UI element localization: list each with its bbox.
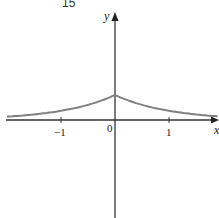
x-tick-label-1: 1 bbox=[166, 126, 172, 138]
y-axis-label: y bbox=[103, 9, 110, 23]
x-tick-label-neg1: −1 bbox=[54, 126, 66, 138]
x-axis-label: x bbox=[213, 123, 219, 137]
chart: −1 0 1 y x bbox=[0, 0, 219, 218]
x-tick-label-0: 0 bbox=[107, 122, 113, 134]
y-axis-arrow-icon bbox=[112, 12, 119, 21]
curve-series bbox=[7, 95, 218, 117]
